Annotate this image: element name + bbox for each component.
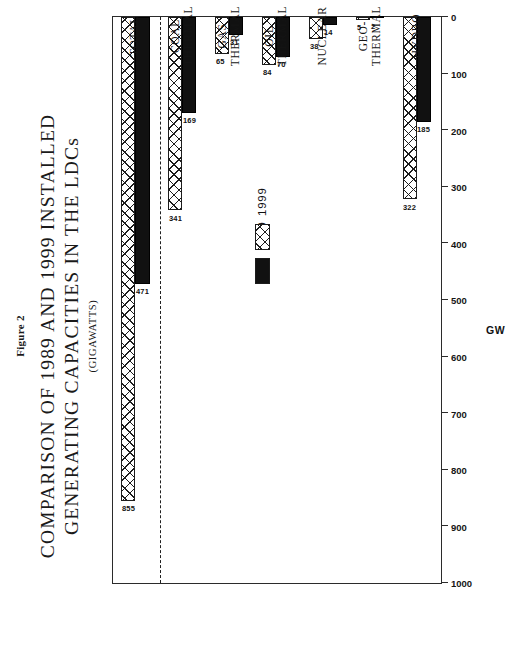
category-label-total: TOTAL [128,0,141,84]
bar-value-label: 185 [417,125,430,134]
axis-tick-label: 900 [451,522,467,533]
axis-tick-label: 600 [451,352,467,363]
axis-tick [441,469,448,470]
bar-total-1999 [121,17,135,501]
axis-tick [441,412,448,413]
axis-tick [441,242,448,243]
axis-tick-label: 400 [451,239,467,250]
axis-tick-label: 1000 [451,579,472,590]
legend-swatch-1989 [255,258,270,284]
chart-plot-area: 3221855238148470653134116985547110009008… [112,16,442,584]
category-label-coal-thermal: COAL THERMAL [169,0,195,84]
bar-value-label: 169 [183,116,196,125]
axis-tick [441,356,448,357]
bar-value-label: 341 [169,214,182,223]
axis-tick-label: 300 [451,182,467,193]
figure-title-block: COMPARISON OF 1989 AND 1999 INSTALLED GE… [36,0,98,672]
bar-value-label: 855 [122,504,135,513]
category-label-nuclear: NUCLEAR [316,0,329,84]
category-label-gas-thermal: GAS THERMAL [216,0,242,84]
title-line-1: COMPARISON OF 1989 AND 1999 INSTALLED [36,0,60,672]
axis-tick [441,16,448,17]
axis-tick [441,129,448,130]
figure-page: Figure 2 COMPARISON OF 1989 AND 1999 INS… [0,0,516,672]
figure-subtitle: (GIGAWATTS) [87,0,98,672]
axis-tick [441,582,448,583]
axis-tick [441,525,448,526]
bar-value-label: 322 [403,203,416,212]
legend-label-1999: 1999 [256,187,268,216]
axis-tick-label: 700 [451,409,467,420]
category-label-oil-thermal: OIL THERMAL [263,0,289,84]
legend-entry-1999: 1999 [255,187,270,250]
category-label-hydro: HYDRO [410,0,423,84]
total-separator-line [160,17,161,583]
value-axis-title: GW [486,324,505,336]
axis-tick [441,186,448,187]
figure-number: Figure 2 [14,0,26,672]
axis-tick-label: 800 [451,465,467,476]
chart-drawing-surface: 3221855238148470653134116985547110009008… [113,17,441,583]
axis-tick-label: 0 [451,13,456,24]
bar-value-label: 471 [136,287,149,296]
axis-tick-label: 500 [451,296,467,307]
axis-tick [441,299,448,300]
axis-tick [441,73,448,74]
category-label-geo-thermal: GEO- THERMAL [357,0,383,84]
title-line-2: GENERATING CAPACITIES IN THE LDCs [60,0,84,672]
axis-tick-label: 200 [451,126,467,137]
legend-swatch-1999 [255,224,270,250]
axis-tick-label: 100 [451,69,467,80]
